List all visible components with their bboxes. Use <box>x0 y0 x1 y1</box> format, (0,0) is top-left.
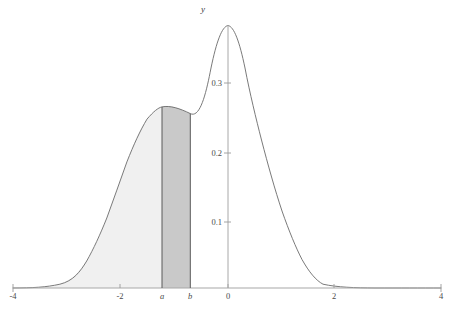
bound-label-b: b <box>188 292 192 301</box>
y-tick-label-0-1: 0.1 <box>202 218 222 227</box>
x-tick-label-zero: 0 <box>226 292 230 301</box>
bell-curve-path <box>13 26 441 289</box>
x-tick-label-pos2: 2 <box>332 292 336 301</box>
y-tick-label-0-2: 0.2 <box>202 149 222 158</box>
shaded-region-between-bounds <box>162 106 190 288</box>
x-tick-label-neg4: -4 <box>9 292 16 301</box>
normal-curve-plot <box>0 0 450 315</box>
y-axis-label: y <box>201 5 205 14</box>
x-tick-label-neg2: -2 <box>116 292 123 301</box>
x-tick-label-pos4: 4 <box>439 292 443 301</box>
normal-distribution-figure: y -4 -2 0 2 4 a b 0.1 0.2 0.3 <box>0 0 450 315</box>
bound-label-a: a <box>160 292 164 301</box>
y-tick-label-0-3: 0.3 <box>202 79 222 88</box>
